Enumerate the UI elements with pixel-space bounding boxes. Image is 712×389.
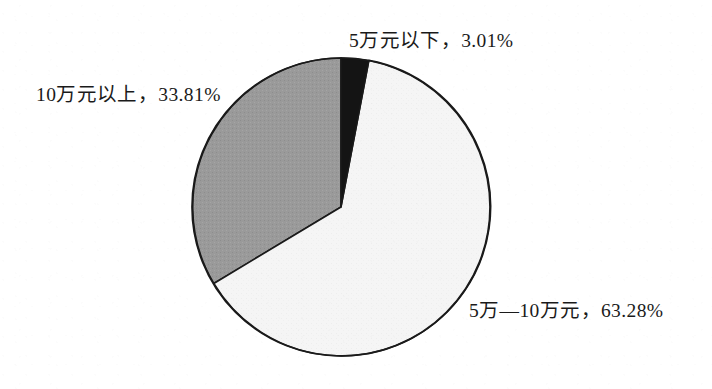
pie-label-5-to-10: 5万—10万元，63.28% [469, 300, 663, 321]
pie-chart-svg [0, 0, 712, 389]
pie-label-below-5: 5万元以下，3.01% [349, 30, 514, 51]
pie-chart-figure: 5万元以下，3.01% 10万元以上，33.81% 5万—10万元，63.28% [0, 0, 712, 389]
pie-label-above-10: 10万元以上，33.81% [36, 84, 221, 105]
pie-chart-page: 5万元以下，3.01% 10万元以上，33.81% 5万—10万元，63.28% [0, 0, 712, 389]
